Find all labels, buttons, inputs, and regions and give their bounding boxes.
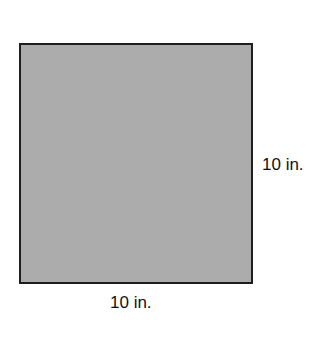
square-shape bbox=[19, 43, 253, 284]
height-label: 10 in. bbox=[262, 156, 304, 173]
width-label: 10 in. bbox=[110, 294, 152, 311]
